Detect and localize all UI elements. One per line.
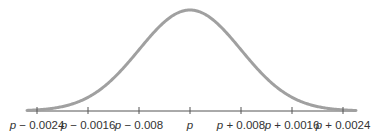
x-tick-label: p + 0.008: [216, 119, 265, 131]
normal-distribution-chart: p − 0.0024p − 0.0016p − 0.008pp + 0.008p…: [0, 0, 388, 140]
x-tick-label: p: [186, 119, 194, 131]
x-tick-label: p + 0.0016: [264, 119, 320, 131]
x-tick-label: p − 0.0024: [9, 119, 65, 131]
x-tick-label: p − 0.0016: [60, 119, 116, 131]
normal-curve: [27, 10, 356, 110]
x-tick-label: p − 0.008: [114, 119, 163, 131]
x-tick-label: p + 0.0024: [315, 119, 371, 131]
